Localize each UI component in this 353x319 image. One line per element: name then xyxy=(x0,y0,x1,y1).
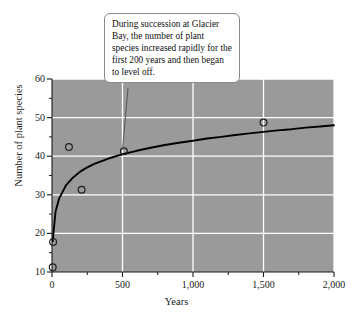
chart-figure: During succession at Glacier Bay, the nu… xyxy=(0,0,353,319)
y-tick-label: 50 xyxy=(25,112,45,123)
callout-annotation: During succession at Glacier Bay, the nu… xyxy=(104,13,240,83)
y-tick-label: 30 xyxy=(25,189,45,200)
x-tick-label: 1,000 xyxy=(171,279,215,290)
x-tick-label: 1,500 xyxy=(242,279,286,290)
y-axis-label: Number of plant species xyxy=(13,66,24,206)
y-tick-label: 20 xyxy=(25,227,45,238)
x-axis-label: Years xyxy=(0,296,353,307)
x-tick-label: 2,000 xyxy=(312,279,353,290)
y-tick-label: 10 xyxy=(25,266,45,277)
x-tick-label: 500 xyxy=(101,279,145,290)
x-tick-label: 0 xyxy=(30,279,74,290)
callout-text: During succession at Glacier Bay, the nu… xyxy=(112,19,232,77)
y-tick-label: 60 xyxy=(25,73,45,84)
y-tick-label: 40 xyxy=(25,150,45,161)
